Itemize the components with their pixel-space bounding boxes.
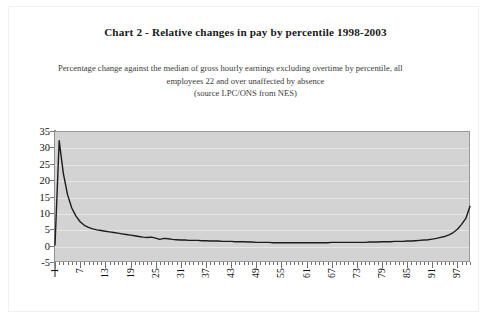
x-axis-tick-mark bbox=[315, 262, 316, 265]
x-axis-tick-mark bbox=[223, 262, 224, 265]
x-axis-tick-mark bbox=[185, 262, 186, 265]
x-axis-tick-mark bbox=[365, 262, 366, 265]
x-axis-tick-label: 79 bbox=[377, 268, 387, 278]
x-axis-tick-mark bbox=[114, 262, 115, 265]
x-axis-tick-mark bbox=[311, 262, 312, 265]
x-axis-tick-label: 73 bbox=[352, 268, 362, 278]
x-axis-tick-mark bbox=[210, 262, 211, 265]
subtitle-line-3: (source LPC/ONS from NES) bbox=[58, 87, 433, 100]
y-axis-tick-label: 0 bbox=[16, 240, 50, 251]
x-axis-tick-mark bbox=[466, 262, 467, 265]
x-axis-tick-mark bbox=[143, 262, 144, 265]
x-axis-tick-mark bbox=[286, 262, 287, 265]
x-axis-tick-mark bbox=[202, 262, 203, 265]
x-axis-tick-mark bbox=[97, 262, 98, 265]
x-axis-tick-mark bbox=[336, 262, 337, 265]
x-axis-tick-label: 55 bbox=[276, 268, 286, 278]
x-axis-tick-mark bbox=[93, 262, 94, 265]
x-axis-tick-label: 13 bbox=[100, 268, 110, 278]
x-axis-tick-mark bbox=[462, 262, 463, 265]
x-axis-tick-mark bbox=[344, 262, 345, 265]
x-axis-tick-mark bbox=[147, 262, 148, 265]
x-axis-tick-mark bbox=[302, 262, 303, 265]
series-path bbox=[55, 141, 470, 245]
y-axis-tick-label: 15 bbox=[16, 191, 50, 202]
x-axis-tick-mark bbox=[361, 262, 362, 265]
x-axis-tick-mark bbox=[416, 262, 417, 265]
x-axis-tick-mark bbox=[68, 262, 69, 265]
x-axis-tick-mark bbox=[437, 262, 438, 265]
series-line-relative-change bbox=[55, 131, 470, 262]
x-axis-tick-label: 19 bbox=[126, 268, 136, 278]
x-axis-tick-mark bbox=[151, 262, 152, 265]
x-axis-tick-mark bbox=[135, 262, 136, 265]
x-axis-tick-mark bbox=[189, 262, 190, 265]
x-axis-tick-mark bbox=[89, 262, 90, 265]
x-axis-tick-mark bbox=[340, 262, 341, 265]
x-axis-tick-mark bbox=[164, 262, 165, 265]
x-axis-tick-mark bbox=[470, 262, 471, 265]
x-axis-tick-mark bbox=[453, 262, 454, 265]
x-axis-tick-mark bbox=[399, 262, 400, 265]
x-axis-tick-mark bbox=[160, 262, 161, 265]
x-axis-tick-mark bbox=[294, 262, 295, 265]
x-axis-tick-mark bbox=[445, 262, 446, 265]
x-axis-tick-mark bbox=[214, 262, 215, 265]
y-axis-tick-label: 35 bbox=[16, 126, 50, 137]
x-axis-tick-mark bbox=[298, 262, 299, 265]
x-axis-tick-mark bbox=[328, 262, 329, 265]
x-axis-tick-mark bbox=[269, 262, 270, 265]
x-axis-tick-mark bbox=[265, 262, 266, 265]
x-axis-tick-mark bbox=[239, 262, 240, 265]
x-axis-tick-mark bbox=[122, 262, 123, 265]
subtitle-line-2: employees 22 and over unaffected by abse… bbox=[58, 75, 433, 88]
subtitle-line-1: Percentage change against the median of … bbox=[58, 62, 433, 75]
x-axis-tick-mark bbox=[386, 262, 387, 265]
x-axis-tick-mark bbox=[235, 262, 236, 265]
x-axis-tick-label: 91 bbox=[427, 268, 437, 278]
x-axis-tick-mark bbox=[411, 262, 412, 265]
x-axis-tick-mark bbox=[428, 262, 429, 265]
x-axis-tick-mark bbox=[72, 262, 73, 265]
x-axis-tick-mark bbox=[172, 262, 173, 265]
x-axis-tick-mark bbox=[403, 262, 404, 265]
x-axis-tick-mark bbox=[323, 262, 324, 265]
x-axis-tick-label: 67 bbox=[327, 268, 337, 278]
x-axis-tick-mark bbox=[193, 262, 194, 265]
y-axis-tick-label: 25 bbox=[16, 158, 50, 169]
x-axis-tick-label: 85 bbox=[402, 268, 412, 278]
x-axis-tick-mark bbox=[277, 262, 278, 265]
x-axis-tick-mark bbox=[420, 262, 421, 265]
x-axis-tick-mark bbox=[441, 262, 442, 265]
x-axis-tick-mark bbox=[348, 262, 349, 265]
y-axis-tick-label: 5 bbox=[16, 224, 50, 235]
x-axis-tick-label: 25 bbox=[151, 268, 161, 278]
x-axis-tick-mark bbox=[273, 262, 274, 265]
y-axis-tick-label: 30 bbox=[16, 142, 50, 153]
x-axis-tick-label: 7 bbox=[75, 268, 85, 273]
x-axis-tick-mark bbox=[395, 262, 396, 265]
x-axis-tick-mark bbox=[390, 262, 391, 265]
chart-subtitle: Percentage change against the median of … bbox=[58, 62, 433, 100]
y-axis-labels: 35302520151050-5 bbox=[14, 0, 50, 324]
x-axis-tick-mark bbox=[59, 262, 60, 265]
y-axis-tick-label: 20 bbox=[16, 175, 50, 186]
x-axis-tick-mark bbox=[424, 262, 425, 265]
x-axis-tick-label: 37 bbox=[201, 268, 211, 278]
y-axis-tick-label: -5 bbox=[16, 257, 50, 268]
x-axis-tick-mark bbox=[378, 262, 379, 265]
x-axis-tick-mark bbox=[63, 262, 64, 265]
x-axis-tick-mark bbox=[369, 262, 370, 265]
x-axis-tick-mark bbox=[353, 262, 354, 265]
x-axis-tick-mark bbox=[319, 262, 320, 265]
x-axis-tick-mark bbox=[168, 262, 169, 265]
x-axis-tick-label: 61 bbox=[302, 268, 312, 278]
x-axis-tick-mark bbox=[252, 262, 253, 265]
x-axis-tick-mark bbox=[449, 262, 450, 265]
x-axis-tick-mark bbox=[227, 262, 228, 265]
x-axis-tick-mark bbox=[248, 262, 249, 265]
page-title: Chart 2 - Relative changes in pay by per… bbox=[0, 26, 491, 38]
x-axis-tick-mark bbox=[260, 262, 261, 265]
x-axis-tick-label: 97 bbox=[452, 268, 462, 278]
chart-page: Chart 2 - Relative changes in pay by per… bbox=[0, 0, 491, 324]
